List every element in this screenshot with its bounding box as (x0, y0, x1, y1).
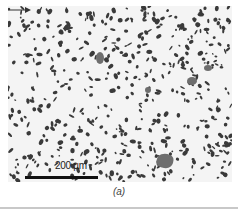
caption-close: ) (122, 186, 125, 197)
micrograph-image: 200 µm (8, 6, 232, 182)
arrow-icon (8, 6, 32, 14)
divider-line (0, 207, 238, 209)
figure-caption: (a) (0, 186, 238, 197)
figure-panel: 200 µm (a) (0, 0, 238, 212)
scale-bar (25, 176, 98, 179)
scale-bar-label: 200 µm (55, 160, 87, 171)
particle-pattern (8, 6, 232, 182)
